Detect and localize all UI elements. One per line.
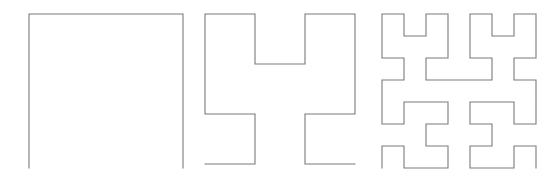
panel-order-3 [380, 0, 538, 182]
hilbert-path-order-3 [382, 14, 536, 168]
panel-order-2 [203, 0, 357, 182]
curve-canvas-3 [380, 0, 538, 182]
curve-canvas-2 [203, 0, 357, 182]
curve-canvas-1 [27, 0, 185, 182]
panel-order-1 [27, 0, 185, 182]
hilbert-curve-figure [0, 0, 553, 182]
hilbert-path-order-1 [29, 14, 183, 168]
hilbert-path-order-2 [205, 14, 355, 164]
